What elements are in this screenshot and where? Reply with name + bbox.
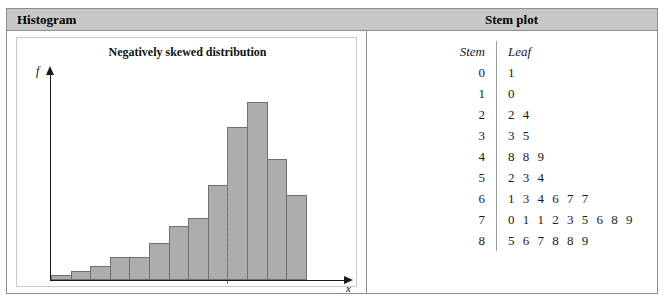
leaf-values: 2 4 bbox=[497, 104, 658, 125]
histogram-bar bbox=[110, 257, 131, 281]
histogram-bar bbox=[129, 257, 150, 281]
stem-value: 3 bbox=[367, 125, 497, 146]
histogram-bar bbox=[247, 102, 268, 280]
stem-value: 8 bbox=[367, 230, 497, 251]
histogram-plot-area: f x bbox=[17, 38, 358, 288]
leaf-values: 2 3 4 bbox=[497, 167, 658, 188]
stemplot-header-row: Stem Leaf bbox=[367, 41, 657, 62]
histogram-bar bbox=[149, 243, 170, 280]
stemplot-row: 33 5 bbox=[367, 125, 657, 146]
stem-value: 5 bbox=[367, 167, 497, 188]
leaf-values: 1 3 4 6 7 7 bbox=[497, 188, 658, 209]
histogram-bar bbox=[227, 127, 248, 280]
stemplot-row: 70 1 1 2 3 5 6 8 9 bbox=[367, 209, 657, 230]
histogram-bar bbox=[71, 271, 92, 280]
leaf-values: 5 6 7 8 8 9 bbox=[497, 230, 658, 251]
histogram-bars bbox=[17, 38, 358, 288]
leaf-values: 8 8 9 bbox=[497, 146, 658, 167]
stemplot-column-header: Stem plot bbox=[366, 9, 657, 31]
table-header-row: Histogram Stem plot bbox=[7, 9, 657, 31]
stemplot-row: 10 bbox=[367, 83, 657, 104]
histogram-bar bbox=[51, 275, 72, 280]
histogram-bar bbox=[90, 266, 111, 280]
histogram-figure: Negatively skewed distribution f x bbox=[16, 37, 357, 287]
stemplot-table: Stem Leaf 011022 433 548 8 952 3 461 3 4… bbox=[367, 41, 657, 251]
leaf-values: 3 5 bbox=[497, 125, 658, 146]
stemplot-body: 011022 433 548 8 952 3 461 3 4 6 7 770 1… bbox=[367, 62, 657, 251]
page-root: Histogram Stem plot Negatively skewed di… bbox=[0, 0, 666, 303]
histogram-bar bbox=[286, 195, 307, 280]
stem-value: 0 bbox=[367, 62, 497, 83]
stemplot-row: 61 3 4 6 7 7 bbox=[367, 188, 657, 209]
stem-value: 2 bbox=[367, 104, 497, 125]
stem-value: 1 bbox=[367, 83, 497, 104]
leaf-values: 0 1 1 2 3 5 6 8 9 bbox=[497, 209, 658, 230]
histogram-column-header: Histogram bbox=[7, 9, 366, 31]
stemplot-row: 01 bbox=[367, 62, 657, 83]
leaf-values: 0 bbox=[497, 83, 658, 104]
stemplot-row: 52 3 4 bbox=[367, 167, 657, 188]
mean-marker-line bbox=[227, 135, 228, 284]
stem-column-label: Stem bbox=[367, 41, 497, 62]
histogram-panel: Negatively skewed distribution f x bbox=[7, 31, 366, 294]
stem-value: 7 bbox=[367, 209, 497, 230]
leaf-values: 1 bbox=[497, 62, 658, 83]
histogram-bar bbox=[208, 185, 229, 280]
leaf-column-label: Leaf bbox=[497, 41, 658, 62]
stemplot-row: 22 4 bbox=[367, 104, 657, 125]
stemplot-row: 48 8 9 bbox=[367, 146, 657, 167]
comparison-table: Histogram Stem plot Negatively skewed di… bbox=[6, 8, 658, 294]
histogram-bar bbox=[188, 218, 209, 280]
stemplot-panel: Stem Leaf 011022 433 548 8 952 3 461 3 4… bbox=[367, 31, 657, 294]
histogram-bar bbox=[169, 226, 190, 280]
stem-value: 6 bbox=[367, 188, 497, 209]
stem-value: 4 bbox=[367, 146, 497, 167]
stemplot-row: 85 6 7 8 8 9 bbox=[367, 230, 657, 251]
histogram-bar bbox=[267, 159, 288, 280]
